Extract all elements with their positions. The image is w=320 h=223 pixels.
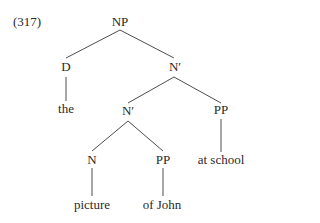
- node-pp-right: PP: [214, 103, 228, 117]
- node-pp-mid: PP: [156, 153, 170, 167]
- leaf-picture: picture: [74, 198, 110, 212]
- node-nbar-top: N′: [169, 60, 181, 74]
- node-n: N: [87, 153, 96, 167]
- node-nbar-mid: N′: [122, 104, 134, 118]
- leaf-at-school: at school: [198, 153, 245, 167]
- node-np: NP: [112, 15, 129, 29]
- leaf-of-john: of John: [143, 198, 182, 212]
- node-d: D: [61, 60, 70, 74]
- leaf-the: the: [58, 102, 74, 116]
